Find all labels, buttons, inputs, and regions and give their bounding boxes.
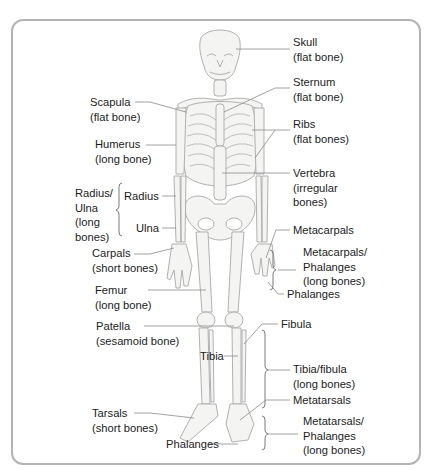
label-vertebra-name: Vertebra bbox=[293, 167, 335, 179]
leader-phalanges-hand bbox=[268, 282, 284, 294]
label-metatarsals: Metatarsals bbox=[293, 393, 351, 408]
label-radius: Radius bbox=[124, 189, 159, 204]
femur-left bbox=[196, 232, 212, 312]
label-mcp-line2: Phalanges bbox=[303, 261, 356, 273]
bracket-tibia-fibula bbox=[262, 330, 268, 408]
forearm-left bbox=[174, 176, 186, 242]
label-ulna: Ulna bbox=[136, 221, 159, 236]
label-skull-type: (flat bone) bbox=[293, 51, 343, 63]
label-humerus: Humerus(long bone) bbox=[95, 137, 152, 166]
label-femur-name: Femur bbox=[95, 284, 127, 296]
label-sternum-name: Sternum bbox=[293, 76, 335, 88]
label-metatarsals-phalanges-group: Metatarsals/Phalanges(long bones) bbox=[303, 414, 365, 458]
label-tibia-fibula-line2: (long bones) bbox=[293, 378, 355, 390]
label-phalanges-foot: Phalanges bbox=[166, 437, 219, 452]
hand-right bbox=[251, 244, 275, 276]
label-patella-type: (sesamoid bone) bbox=[96, 335, 179, 347]
label-skull: Skull(flat bone) bbox=[293, 35, 343, 64]
label-radius-ulna-line1: Radius/ bbox=[75, 187, 113, 199]
label-scapula-type: (flat bone) bbox=[90, 111, 140, 123]
label-metacarpals: Metacarpals bbox=[293, 223, 354, 238]
label-carpals-type: (short bones) bbox=[92, 262, 158, 274]
label-tibia: Tibia bbox=[200, 349, 224, 364]
label-carpals-name: Carpals bbox=[92, 247, 131, 259]
label-radius-ulna-line3: (long bbox=[75, 216, 100, 228]
label-sternum-type: (flat bone) bbox=[293, 91, 343, 103]
skull-bone bbox=[200, 30, 240, 80]
label-tibia-fibula-line1: Tibia/fibula bbox=[293, 363, 347, 375]
label-radius-ulna-group: Radius/Ulna(longbones) bbox=[75, 186, 113, 244]
label-ribs: Ribs(flat bones) bbox=[293, 117, 349, 146]
label-fibula: Fibula bbox=[281, 317, 311, 332]
forearm-right bbox=[256, 176, 268, 242]
humerus-left bbox=[176, 108, 186, 174]
label-patella-name: Patella bbox=[96, 320, 130, 332]
skeleton-illustration bbox=[0, 0, 446, 471]
sternum-bone bbox=[216, 104, 224, 146]
label-vertebra-type-line2: bones) bbox=[293, 196, 327, 208]
label-femur: Femur(long bone) bbox=[95, 283, 152, 312]
bracket-metatarsals-phalanges bbox=[262, 416, 268, 450]
label-mcp-line3: (long bones) bbox=[303, 275, 365, 287]
bracket-radius-ulna bbox=[116, 183, 122, 236]
label-tarsals: Tarsals(short bones) bbox=[92, 406, 158, 435]
label-humerus-name: Humerus bbox=[95, 138, 140, 150]
label-femur-type: (long bone) bbox=[95, 299, 152, 311]
label-radius-ulna-line4: bones) bbox=[75, 231, 109, 243]
label-vertebra: Vertebra(irregularbones) bbox=[293, 166, 338, 210]
tibia-fibula-right bbox=[232, 328, 246, 404]
label-mtp-line2: Phalanges bbox=[303, 430, 356, 442]
label-phalanges-hand: Phalanges bbox=[287, 287, 340, 302]
cervical-spine bbox=[214, 80, 226, 96]
tibia-fibula-left bbox=[199, 328, 214, 404]
leader-fibula bbox=[244, 324, 278, 344]
label-ribs-type: (flat bones) bbox=[293, 133, 349, 145]
label-radius-ulna-line2: Ulna bbox=[75, 202, 98, 214]
label-skull-name: Skull bbox=[293, 36, 317, 48]
label-metacarpals-phalanges-group: Metacarpals/Phalanges(long bones) bbox=[303, 245, 367, 289]
label-sternum: Sternum(flat bone) bbox=[293, 75, 343, 104]
label-humerus-type: (long bone) bbox=[95, 153, 152, 165]
label-carpals: Carpals(short bones) bbox=[92, 246, 158, 275]
label-mcp-line1: Metacarpals/ bbox=[303, 246, 367, 258]
label-ribs-name: Ribs bbox=[293, 118, 315, 130]
label-mtp-line1: Metatarsals/ bbox=[303, 415, 364, 427]
label-mtp-line3: (long bones) bbox=[303, 444, 365, 456]
label-tarsals-name: Tarsals bbox=[92, 407, 127, 419]
humerus-right bbox=[254, 108, 264, 174]
label-tarsals-type: (short bones) bbox=[92, 422, 158, 434]
pelvis bbox=[185, 196, 255, 240]
label-tibia-fibula-group: Tibia/fibula(long bones) bbox=[293, 362, 355, 391]
skeleton bbox=[167, 30, 275, 442]
label-patella: Patella(sesamoid bone) bbox=[96, 319, 179, 348]
foot-right bbox=[226, 404, 254, 442]
hand-left bbox=[167, 244, 192, 288]
label-vertebra-type-line1: (irregular bbox=[293, 182, 338, 194]
femur-right bbox=[228, 232, 244, 312]
label-scapula: Scapula(flat bone) bbox=[90, 95, 140, 124]
label-scapula-name: Scapula bbox=[90, 96, 130, 108]
